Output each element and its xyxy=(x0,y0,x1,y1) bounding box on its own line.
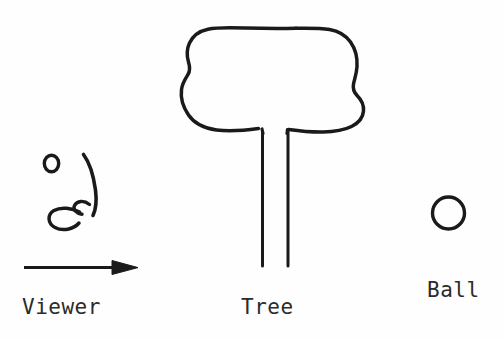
viewer-label: Viewer xyxy=(22,297,101,318)
ball-label: Ball xyxy=(427,280,480,301)
tree-label: Tree xyxy=(241,297,294,318)
sketch-canvas: Viewer Tree Ball xyxy=(0,0,503,340)
